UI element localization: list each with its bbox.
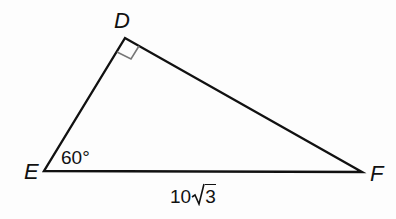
square-root-icon bbox=[191, 182, 205, 206]
triangle-def bbox=[44, 38, 362, 172]
side-label-ef: 10 3 bbox=[170, 182, 216, 206]
triangle-diagram: D E F 60° 10 3 bbox=[0, 0, 396, 219]
side-coefficient: 10 bbox=[170, 187, 191, 206]
vertex-label-f: F bbox=[370, 163, 383, 185]
vertex-label-e: E bbox=[24, 161, 39, 183]
vertex-label-d: D bbox=[114, 10, 130, 32]
angle-label-e: 60° bbox=[61, 148, 90, 167]
side-radicand: 3 bbox=[205, 184, 216, 206]
